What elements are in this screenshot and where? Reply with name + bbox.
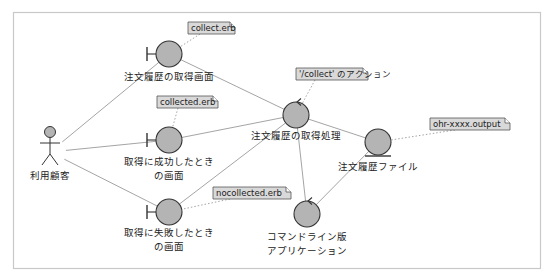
note-output[interactable]: ohr-xxxx.output xyxy=(430,118,510,130)
note-collected[interactable]: collected.erb xyxy=(157,96,218,108)
note-action[interactable]: '/collect' のアクション xyxy=(296,68,391,80)
entity-circle-icon xyxy=(365,129,391,155)
node-label: 注文履歴の取得処理 xyxy=(251,130,341,141)
robustness-diagram: 利用顧客注文履歴の取得画面取得に成功したときの画面取得に失敗したときの画面注文履… xyxy=(0,0,553,280)
node-label: 注文履歴の取得画面 xyxy=(124,71,214,82)
control-circle-icon xyxy=(283,102,309,128)
node-label: の画面 xyxy=(154,170,184,181)
node-label: アプリケーション xyxy=(267,245,347,256)
node-label: 注文履歴ファイル xyxy=(338,161,418,172)
note-text: collected.erb xyxy=(160,97,215,107)
note-text: ohr-xxxx.output xyxy=(433,119,501,129)
node-label: の画面 xyxy=(154,241,184,252)
note-text: nocollected.erb xyxy=(216,188,282,198)
boundary-circle-icon xyxy=(156,199,182,225)
note-text: collect.erb xyxy=(191,23,236,33)
boundary-circle-icon xyxy=(156,127,182,153)
node-label: 取得に成功したとき xyxy=(124,156,214,167)
actor-head-icon xyxy=(45,127,56,138)
boundary-circle-icon xyxy=(156,41,182,67)
note-nocollected[interactable]: nocollected.erb xyxy=(213,187,291,199)
node-label: 取得に失敗したとき xyxy=(124,227,214,238)
note-text: '/collect' のアクション xyxy=(299,69,391,79)
control-circle-icon xyxy=(294,201,320,227)
actor-label: 利用顧客 xyxy=(30,170,70,181)
node-label: コマンドライン版 xyxy=(267,231,347,242)
note-collect[interactable]: collect.erb xyxy=(188,22,236,34)
